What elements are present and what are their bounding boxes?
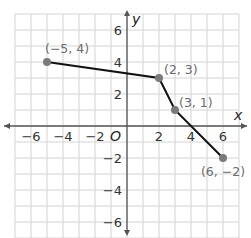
y-tick-label: −6 xyxy=(103,215,122,230)
y-tick-label: −4 xyxy=(103,183,122,198)
axes: xy xyxy=(4,10,247,236)
y-axis-down-arrow-icon xyxy=(124,230,130,236)
data-point xyxy=(171,106,179,114)
x-axis-left-arrow-icon xyxy=(4,123,10,129)
point-label: (2, 3) xyxy=(164,62,198,77)
data-point xyxy=(43,58,51,66)
data-point xyxy=(219,154,227,162)
y-axis-label: y xyxy=(131,11,141,27)
y-tick-label: 2 xyxy=(114,87,122,102)
point-label: (−5, 4) xyxy=(45,41,89,56)
x-axis-right-arrow-icon xyxy=(241,123,247,129)
x-tick-label: 2 xyxy=(155,129,163,144)
y-tick-label: 4 xyxy=(114,55,122,70)
y-axis-up-arrow-icon xyxy=(124,10,130,16)
y-tick-label: 6 xyxy=(114,23,122,38)
coordinate-plane: xy −6−4−2246642−2−4−6O (−5, 4)(2, 3)(3, … xyxy=(0,0,251,238)
x-tick-label: −4 xyxy=(53,129,72,144)
x-tick-label: 6 xyxy=(219,129,227,144)
point-label: (3, 1) xyxy=(179,95,213,110)
x-tick-label: 4 xyxy=(187,129,195,144)
y-tick-label: −2 xyxy=(103,151,122,166)
origin-label: O xyxy=(110,128,121,144)
data-point xyxy=(155,74,163,82)
x-tick-label: −6 xyxy=(21,129,40,144)
x-axis-label: x xyxy=(233,107,243,123)
point-label: (6, −2) xyxy=(201,164,245,179)
x-tick-label: −2 xyxy=(85,129,104,144)
